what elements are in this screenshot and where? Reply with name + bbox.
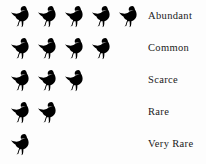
bird-icon	[36, 4, 62, 28]
legend-row: Abundant	[0, 0, 206, 32]
legend-row-label: Common	[140, 42, 206, 54]
legend-row-label: Scarce	[140, 74, 206, 86]
bird-icon	[9, 4, 35, 28]
pictogram-group	[0, 0, 140, 32]
bird-icon	[90, 4, 116, 28]
bird-icon	[63, 68, 89, 92]
legend-row: Common	[0, 32, 206, 64]
bird-icon	[117, 4, 143, 28]
bird-icon	[36, 68, 62, 92]
legend-row-label: Very Rare	[140, 138, 206, 150]
bird-icon	[9, 132, 35, 156]
legend-row: Very Rare	[0, 128, 206, 160]
pictogram-group	[0, 128, 140, 160]
legend-row-label: Rare	[140, 106, 206, 118]
bird-icon	[63, 4, 89, 28]
legend-row: Rare	[0, 96, 206, 128]
bird-abundance-legend: AbundantCommonScarceRareVery Rare	[0, 0, 206, 164]
bird-icon	[63, 36, 89, 60]
bird-icon	[9, 68, 35, 92]
pictogram-group	[0, 64, 140, 96]
legend-row-label: Abundant	[140, 10, 206, 22]
bird-icon	[9, 100, 35, 124]
bird-icon	[36, 100, 62, 124]
bird-icon	[36, 36, 62, 60]
bird-icon	[90, 36, 116, 60]
bird-icon	[9, 36, 35, 60]
pictogram-group	[0, 32, 140, 64]
pictogram-group	[0, 96, 140, 128]
legend-row: Scarce	[0, 64, 206, 96]
